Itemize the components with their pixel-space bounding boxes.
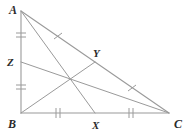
label-vertex-a: A xyxy=(8,3,17,17)
label-point-z: Z xyxy=(6,56,14,68)
label-vertex-b: B xyxy=(7,117,16,131)
triangle-medians-figure: A B C X Y Z xyxy=(0,0,184,132)
label-point-y: Y xyxy=(93,47,101,59)
median-by-line xyxy=(21,62,95,113)
median-ax-line xyxy=(21,11,95,113)
label-vertex-c: C xyxy=(174,117,183,131)
geometry-diagram: A B C X Y Z xyxy=(0,0,184,132)
label-point-x: X xyxy=(91,119,100,131)
median-cz-line xyxy=(21,62,169,113)
